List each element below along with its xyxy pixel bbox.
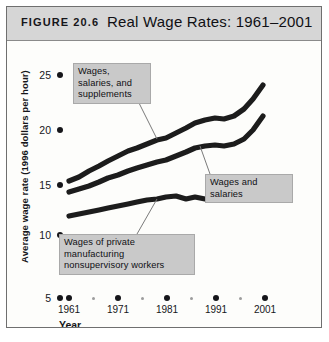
callout-manufacturing: Wages of private manufacturing nonsuperv… xyxy=(59,234,195,275)
figure-number-label: FIGURE 20.6 xyxy=(21,16,99,28)
figure-card: FIGURE 20.6 Real Wage Rates: 1961–2001 A… xyxy=(6,6,322,328)
x-tick-dot-minor-1986 xyxy=(190,297,193,300)
x-tick-dot-2001 xyxy=(262,295,268,301)
leader-line-manufacturing xyxy=(137,199,157,234)
x-tick-dot-minor-1996 xyxy=(239,297,242,300)
x-tick-label-2001: 2001 xyxy=(245,304,285,315)
x-tick-label-1981: 1981 xyxy=(147,304,187,315)
x-tick-label-1991: 1991 xyxy=(196,304,236,315)
x-axis-label: Year xyxy=(59,319,81,328)
x-tick-dot-1981 xyxy=(164,295,170,301)
callout-supplements: Wages, salaries, and supplements xyxy=(73,63,151,104)
x-tick-dot-minor-1966 xyxy=(92,297,95,300)
x-tick-label-1971: 1971 xyxy=(98,304,138,315)
x-tick-dot-1961 xyxy=(66,295,72,301)
figure-title: Real Wage Rates: 1961–2001 xyxy=(107,13,313,30)
x-tick-dot-1991 xyxy=(213,295,219,301)
x-tick-dot-minor-1976 xyxy=(141,297,144,300)
x-tick-dot-1971 xyxy=(115,295,121,301)
x-tick-label-1961: 1961 xyxy=(49,304,89,315)
callout-wages-salaries: Wages and salaries xyxy=(205,174,293,203)
plot-area: Average wage rate (1996 dollars per hour… xyxy=(7,41,322,328)
leader-line-wages-salaries xyxy=(200,146,210,174)
